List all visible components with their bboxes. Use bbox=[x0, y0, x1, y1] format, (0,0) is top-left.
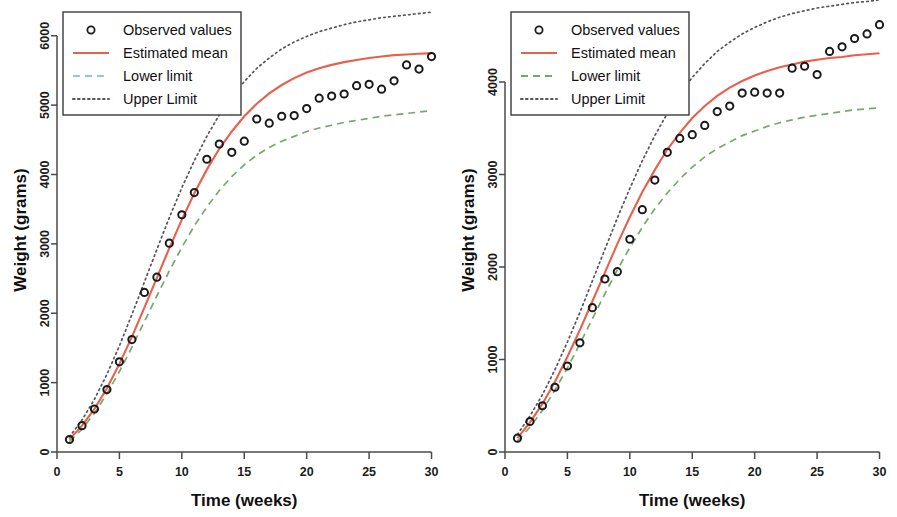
x-tick-label: 25 bbox=[362, 465, 376, 479]
y-tick-label: 0 bbox=[38, 448, 52, 455]
data-point bbox=[739, 90, 746, 97]
x-tick-label: 5 bbox=[116, 465, 123, 479]
x-tick-label: 25 bbox=[810, 465, 824, 479]
data-point bbox=[241, 138, 248, 145]
data-point bbox=[253, 115, 260, 122]
data-point bbox=[378, 86, 385, 93]
y-tick-label: 4000 bbox=[38, 161, 52, 189]
x-tick-label: 10 bbox=[175, 465, 189, 479]
x-axis-right: 051015202530 bbox=[502, 452, 887, 479]
data-point bbox=[626, 236, 633, 243]
legend-item-label: Observed values bbox=[571, 22, 680, 38]
data-point bbox=[403, 61, 410, 68]
data-point bbox=[764, 90, 771, 97]
data-point bbox=[851, 35, 858, 42]
plot-svg-left: 0100020003000400050006000051015202530Tim… bbox=[0, 0, 448, 517]
y-tick-label: 1000 bbox=[38, 369, 52, 397]
legend-item-label: Estimated mean bbox=[571, 45, 676, 61]
data-point bbox=[316, 95, 323, 102]
data-point bbox=[366, 81, 373, 88]
y-axis-left: 0100020003000400050006000 bbox=[38, 22, 57, 456]
data-point bbox=[278, 113, 285, 120]
data-point bbox=[415, 65, 422, 72]
x-tick-label: 15 bbox=[237, 465, 251, 479]
data-point bbox=[390, 77, 397, 84]
legend-item-label: Estimated mean bbox=[123, 45, 228, 61]
data-point bbox=[341, 90, 348, 97]
x-axis-title-left: Time (weeks) bbox=[191, 491, 297, 510]
y-tick-label: 1000 bbox=[486, 346, 500, 374]
data-point bbox=[651, 176, 658, 183]
data-point bbox=[303, 105, 310, 112]
x-tick-label: 20 bbox=[300, 465, 314, 479]
legend-left: Observed valuesEstimated meanLower limit… bbox=[63, 12, 241, 115]
y-axis-title-left: Weight (grams) bbox=[11, 168, 30, 291]
x-tick-label: 30 bbox=[873, 465, 887, 479]
plot-svg-right: 01000200030004000051015202530Time (weeks… bbox=[448, 0, 896, 517]
data-point bbox=[801, 63, 808, 70]
legend-right: Observed valuesEstimated meanLower limit… bbox=[511, 12, 689, 115]
y-axis-title-right: Weight (grams) bbox=[459, 168, 478, 291]
y-tick-label: 2000 bbox=[486, 253, 500, 281]
x-tick-label: 10 bbox=[623, 465, 637, 479]
data-point bbox=[676, 135, 683, 142]
data-point bbox=[266, 120, 273, 127]
x-tick-label: 0 bbox=[54, 465, 61, 479]
data-point bbox=[639, 206, 646, 213]
data-point bbox=[353, 82, 360, 89]
data-point bbox=[614, 268, 621, 275]
x-tick-label: 15 bbox=[685, 465, 699, 479]
x-tick-label: 30 bbox=[425, 465, 439, 479]
data-point bbox=[714, 108, 721, 115]
data-point bbox=[701, 122, 708, 129]
data-point bbox=[328, 93, 335, 100]
y-tick-label: 3000 bbox=[486, 161, 500, 189]
data-point bbox=[689, 131, 696, 138]
y-tick-label: 4000 bbox=[486, 68, 500, 96]
series-line-lower-limit-right bbox=[517, 108, 879, 441]
chart-panel-right: 01000200030004000051015202530Time (weeks… bbox=[448, 0, 896, 517]
y-axis-right: 01000200030004000 bbox=[486, 68, 505, 455]
legend-item-label: Upper Limit bbox=[571, 91, 645, 107]
y-tick-label: 0 bbox=[486, 448, 500, 455]
data-point bbox=[876, 21, 883, 28]
chart-panel-left: 0100020003000400050006000051015202530Tim… bbox=[0, 0, 448, 517]
data-point bbox=[141, 289, 148, 296]
x-axis-left: 051015202530 bbox=[54, 452, 439, 479]
data-point bbox=[726, 102, 733, 109]
figure-two-growth-curve-panels: 0100020003000400050006000051015202530Tim… bbox=[0, 0, 897, 517]
x-tick-label: 20 bbox=[748, 465, 762, 479]
legend-item-label: Observed values bbox=[123, 22, 232, 38]
data-point bbox=[838, 43, 845, 50]
legend-item-label: Upper Limit bbox=[123, 91, 197, 107]
data-point bbox=[826, 48, 833, 55]
data-point bbox=[751, 89, 758, 96]
data-point bbox=[789, 65, 796, 72]
data-point bbox=[863, 30, 870, 37]
y-tick-label: 3000 bbox=[38, 230, 52, 258]
data-point bbox=[228, 149, 235, 156]
data-point bbox=[776, 90, 783, 97]
data-point bbox=[291, 112, 298, 119]
x-axis-title-right: Time (weeks) bbox=[639, 491, 745, 510]
data-point bbox=[203, 156, 210, 163]
y-tick-label: 6000 bbox=[38, 22, 52, 50]
x-tick-label: 5 bbox=[564, 465, 571, 479]
legend-item-label: Lower limit bbox=[123, 68, 192, 84]
data-point bbox=[814, 71, 821, 78]
legend-item-label: Lower limit bbox=[571, 68, 640, 84]
y-tick-label: 5000 bbox=[38, 91, 52, 119]
y-tick-label: 2000 bbox=[38, 299, 52, 327]
x-tick-label: 0 bbox=[502, 465, 509, 479]
series-line-lower-limit-left bbox=[69, 111, 431, 442]
